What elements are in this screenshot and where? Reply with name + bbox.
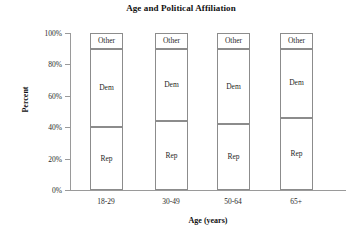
bar-segment-rep[interactable]: Rep [217,124,250,190]
bar-segment-other[interactable]: Other [90,33,123,49]
x-axis-title: Age (years) [70,216,346,225]
x-axis-tick-label: 65+ [266,197,326,206]
chart-container: Age and Political Affiliation Percent 10… [0,0,362,242]
bar-segment-label: Other [98,37,115,45]
y-axis-tick-label: 80% [32,60,62,69]
y-axis-tick-label: 20% [32,154,62,163]
bar-segment-rep[interactable]: Rep [90,127,123,190]
bar-segment-label: Dem [164,81,179,89]
chart-title: Age and Political Affiliation [0,3,362,13]
bar-segment-label: Rep [165,152,177,160]
bar-segment-rep[interactable]: Rep [280,118,313,190]
y-axis-tick [65,190,70,191]
x-axis-tick-label: 30-49 [141,197,201,206]
stacked-bar[interactable]: OtherDemRep [155,33,188,190]
bar-segment-dem[interactable]: Dem [155,49,188,121]
bar-segment-other[interactable]: Other [155,33,188,49]
y-axis-tick-label: 60% [32,91,62,100]
y-axis-title: Percent [21,70,30,130]
bar-segment-label: Rep [290,150,302,158]
bar-segment-label: Rep [100,155,112,163]
bar-segment-dem[interactable]: Dem [217,49,250,124]
stacked-bar[interactable]: OtherDemRep [90,33,123,190]
bar-segment-label: Other [225,37,242,45]
bar-segment-rep[interactable]: Rep [155,121,188,190]
bar-segment-other[interactable]: Other [217,33,250,49]
x-axis-tick-label: 18-29 [76,197,136,206]
stacked-bar[interactable]: OtherDemRep [280,33,313,190]
plot-area: OtherDemRepOtherDemRepOtherDemRepOtherDe… [70,33,345,190]
bar-segment-dem[interactable]: Dem [90,49,123,128]
bar-segment-label: Dem [226,83,241,91]
bar-segment-label: Dem [289,79,304,87]
x-axis-line [70,190,346,191]
bar-segment-label: Dem [99,84,114,92]
bar-segment-label: Other [163,37,180,45]
y-axis-tick-label: 0% [32,186,62,195]
x-axis-tick-label: 50-64 [203,197,263,206]
y-axis-tick-label: 100% [32,29,62,38]
y-axis-tick-label: 40% [32,123,62,132]
bar-segment-other[interactable]: Other [280,33,313,49]
stacked-bar[interactable]: OtherDemRep [217,33,250,190]
bar-segment-label: Rep [227,153,239,161]
bar-segment-label: Other [288,37,305,45]
bar-segment-dem[interactable]: Dem [280,49,313,118]
